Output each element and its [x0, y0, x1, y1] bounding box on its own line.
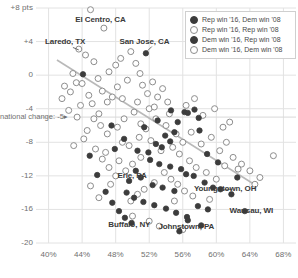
data-point	[131, 109, 137, 115]
data-point	[84, 128, 90, 134]
data-point	[86, 92, 92, 98]
data-point	[147, 157, 152, 162]
data-point	[137, 71, 143, 77]
data-point	[171, 198, 177, 204]
data-point	[208, 134, 214, 140]
legend-item-label: Dem win '16, Dem win '08	[202, 45, 282, 55]
data-point	[67, 89, 73, 95]
data-point	[88, 183, 94, 189]
data-point	[145, 91, 151, 97]
x-axis-tick-label: 52%	[133, 250, 165, 259]
national-change-label: national change: -5▸	[0, 112, 68, 121]
data-point	[191, 173, 196, 178]
data-point	[217, 148, 223, 154]
data-point	[183, 172, 188, 177]
legend-item-label: Rep win '16, Dem win '08	[202, 15, 281, 25]
data-point	[93, 146, 99, 152]
data-point	[155, 118, 160, 123]
legend-item[interactable]: Dem win '16, Dem win '08	[190, 45, 291, 55]
data-point	[223, 139, 229, 145]
data-point	[121, 136, 126, 141]
data-point	[136, 134, 142, 140]
data-point	[83, 52, 89, 58]
x-axis-tick-label: 44%	[66, 250, 98, 259]
data-point	[118, 55, 124, 61]
data-point	[159, 145, 164, 150]
city-annotation-label: Johnstown, PA	[158, 222, 214, 231]
data-point	[150, 182, 155, 187]
data-point	[141, 199, 146, 204]
data-point	[109, 123, 114, 128]
data-point	[114, 84, 120, 90]
data-point	[104, 99, 110, 105]
legend-item[interactable]: Dem win '16, Rep win '08	[190, 35, 291, 45]
city-annotation-label: Laredo, TX	[45, 37, 85, 46]
data-point	[91, 116, 97, 122]
data-point	[81, 136, 87, 142]
data-point	[172, 188, 177, 193]
data-point	[215, 160, 220, 165]
data-point	[78, 102, 84, 108]
data-point	[133, 60, 139, 66]
data-point	[270, 153, 276, 159]
data-point	[114, 124, 120, 130]
data-point	[108, 181, 114, 187]
legend-item-label: Rep win '16, Rep win '08	[202, 25, 279, 35]
data-point	[153, 141, 158, 146]
data-point	[87, 153, 92, 158]
scatter-chart: +8 pts+40-4-8-12-16-20national change: -…	[0, 0, 298, 278]
data-point	[193, 165, 199, 171]
legend-marker-icon	[190, 36, 198, 44]
data-point	[119, 96, 125, 102]
data-point	[180, 139, 186, 145]
data-point	[106, 165, 112, 171]
x-axis-tick-label: 56%	[167, 250, 199, 259]
data-point	[150, 79, 156, 85]
data-point	[160, 86, 166, 92]
data-point	[175, 181, 181, 187]
data-point	[146, 150, 151, 155]
data-point	[222, 163, 228, 169]
data-point	[190, 193, 196, 199]
legend-item[interactable]: Rep win '16, Rep win '08	[190, 25, 291, 35]
data-point	[135, 99, 141, 105]
data-point	[130, 161, 136, 167]
data-point	[70, 71, 76, 77]
data-point	[204, 151, 209, 156]
data-point	[203, 170, 209, 176]
data-point	[98, 123, 104, 129]
data-point	[198, 141, 204, 147]
legend: Rep win '16, Dem win '08Rep win '16, Rep…	[185, 11, 296, 59]
x-axis-tick-label: 64%	[234, 250, 266, 259]
data-point	[196, 115, 201, 120]
data-point	[110, 200, 115, 205]
data-point	[91, 59, 97, 65]
y-axis-tick-label: -20	[0, 238, 33, 247]
legend-marker-icon	[190, 26, 198, 34]
data-point	[182, 188, 188, 194]
legend-marker-icon	[190, 16, 198, 24]
data-point	[121, 116, 127, 122]
data-point	[104, 131, 110, 137]
data-point	[257, 175, 263, 181]
data-point	[130, 213, 136, 219]
data-point	[183, 102, 189, 108]
data-point	[188, 129, 194, 135]
data-point	[103, 149, 109, 155]
legend-item[interactable]: Rep win '16, Dem win '08	[190, 15, 291, 25]
data-point	[168, 164, 173, 169]
data-point	[124, 77, 130, 83]
data-point	[163, 206, 168, 211]
city-annotation-label: El Centro, CA	[75, 15, 125, 24]
data-point	[79, 81, 85, 87]
data-point	[168, 139, 173, 144]
data-point	[116, 158, 122, 164]
data-point	[235, 175, 240, 180]
data-point	[205, 207, 210, 212]
y-axis-tick-label: -12	[0, 171, 33, 180]
data-point	[113, 62, 119, 68]
data-point	[80, 72, 85, 77]
data-point	[175, 119, 180, 124]
y-axis-tick-label: -16	[0, 204, 33, 213]
data-point	[74, 114, 80, 120]
